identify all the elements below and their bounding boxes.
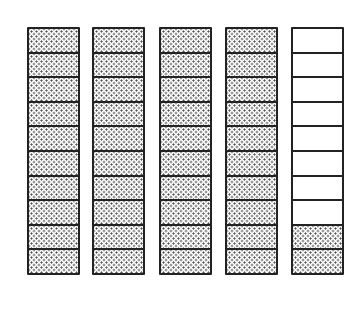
shaded-cell bbox=[94, 103, 143, 128]
shaded-cell bbox=[161, 78, 210, 103]
shaded-cell bbox=[227, 177, 276, 202]
shaded-cell bbox=[161, 127, 210, 152]
shaded-cell bbox=[293, 226, 342, 251]
shaded-cell bbox=[29, 226, 78, 251]
shaded-cell bbox=[161, 103, 210, 128]
shaded-cell bbox=[94, 226, 143, 251]
empty-cell bbox=[293, 177, 342, 202]
empty-cell bbox=[293, 152, 342, 177]
shaded-cell bbox=[29, 127, 78, 152]
shaded-cell bbox=[94, 201, 143, 226]
shaded-cell bbox=[227, 103, 276, 128]
empty-cell bbox=[293, 127, 342, 152]
shaded-cell bbox=[29, 103, 78, 128]
shaded-cell bbox=[293, 250, 342, 273]
shaded-cell bbox=[227, 29, 276, 54]
shaded-cell bbox=[94, 152, 143, 177]
shaded-cell bbox=[94, 127, 143, 152]
shaded-cell bbox=[161, 54, 210, 79]
shaded-cell bbox=[161, 201, 210, 226]
tenths-strip-1 bbox=[27, 27, 80, 275]
shaded-cell bbox=[94, 250, 143, 273]
shaded-cell bbox=[227, 226, 276, 251]
shaded-cell bbox=[227, 250, 276, 273]
tenths-strip-diagram bbox=[0, 0, 360, 315]
shaded-cell bbox=[227, 127, 276, 152]
tenths-strip-4 bbox=[225, 27, 278, 275]
empty-cell bbox=[293, 29, 342, 54]
tenths-strip-5 bbox=[291, 27, 344, 275]
empty-cell bbox=[293, 54, 342, 79]
shaded-cell bbox=[227, 152, 276, 177]
tenths-strip-2 bbox=[92, 27, 145, 275]
shaded-cell bbox=[94, 177, 143, 202]
shaded-cell bbox=[227, 201, 276, 226]
shaded-cell bbox=[161, 152, 210, 177]
shaded-cell bbox=[29, 78, 78, 103]
shaded-cell bbox=[161, 29, 210, 54]
shaded-cell bbox=[29, 177, 78, 202]
shaded-cell bbox=[94, 78, 143, 103]
shaded-cell bbox=[29, 201, 78, 226]
empty-cell bbox=[293, 201, 342, 226]
shaded-cell bbox=[94, 54, 143, 79]
shaded-cell bbox=[161, 177, 210, 202]
empty-cell bbox=[293, 78, 342, 103]
shaded-cell bbox=[94, 29, 143, 54]
shaded-cell bbox=[29, 152, 78, 177]
shaded-cell bbox=[29, 250, 78, 273]
tenths-strip-3 bbox=[159, 27, 212, 275]
shaded-cell bbox=[227, 78, 276, 103]
shaded-cell bbox=[29, 54, 78, 79]
empty-cell bbox=[293, 103, 342, 128]
shaded-cell bbox=[161, 226, 210, 251]
shaded-cell bbox=[227, 54, 276, 79]
shaded-cell bbox=[29, 29, 78, 54]
shaded-cell bbox=[161, 250, 210, 273]
